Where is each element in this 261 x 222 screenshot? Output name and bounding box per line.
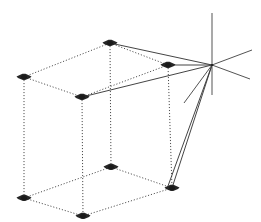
vertical-back-right bbox=[110, 43, 111, 167]
bottom-face-front-left-to-back-left bbox=[24, 198, 83, 216]
top-face-front-right-to-front-left bbox=[82, 65, 168, 97]
vertex-marker-core bbox=[169, 186, 175, 190]
ray-to-top-back-right bbox=[110, 43, 212, 65]
axis-upper-right bbox=[212, 50, 252, 65]
camera-center-dot bbox=[211, 64, 213, 66]
diagram-canvas bbox=[0, 0, 261, 222]
vertex-marker-core bbox=[165, 63, 171, 67]
cube-edge-group bbox=[24, 43, 172, 216]
bottom-face-back-right-to-front-right bbox=[111, 167, 172, 188]
bottom-face-back-left-to-back-right bbox=[24, 167, 111, 198]
ray-to-bottom-back-right bbox=[168, 65, 212, 186]
vertex-marker-bottom-front-right bbox=[165, 185, 180, 191]
vertex-marker-bottom-back-left bbox=[17, 195, 32, 201]
ray-to-bottom-front-right bbox=[172, 65, 212, 188]
top-face-back-left-to-back-right bbox=[24, 43, 110, 77]
wireframe-cube-scene bbox=[0, 0, 261, 222]
vertex-marker-core bbox=[21, 196, 27, 200]
vertex-marker-core bbox=[79, 95, 85, 99]
top-face-front-left-to-back-left bbox=[24, 77, 82, 97]
vertex-marker-top-back-left bbox=[17, 74, 32, 80]
vertex-marker-bottom-front-left bbox=[76, 213, 91, 219]
bottom-face-front-right-to-front-left bbox=[83, 188, 172, 216]
vertical-front-right bbox=[168, 65, 172, 188]
vertex-marker-top-back-right bbox=[103, 40, 118, 46]
vertex-marker-top-front-right bbox=[161, 62, 176, 68]
vertex-marker-top-front-left bbox=[75, 94, 90, 100]
projection-ray-group bbox=[82, 43, 212, 188]
projection-center-marker bbox=[211, 64, 213, 66]
vertex-marker-core bbox=[108, 165, 114, 169]
vertex-marker-bottom-back-right bbox=[104, 164, 119, 170]
vertex-marker-core bbox=[80, 214, 86, 218]
vertical-front-left bbox=[82, 97, 83, 216]
axis-lower-right bbox=[212, 65, 250, 79]
vertex-marker-core bbox=[21, 75, 27, 79]
vertex-marker-core bbox=[107, 41, 113, 45]
vertex-marker-group bbox=[17, 40, 180, 219]
coordinate-axis-group bbox=[184, 13, 252, 103]
